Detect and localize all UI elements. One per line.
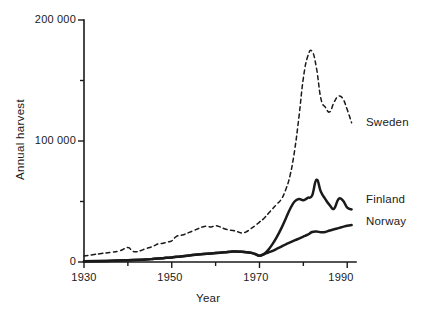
series-label-sweden: Sweden [366, 116, 409, 128]
chart-axes [84, 20, 356, 262]
series-label-finland: Finland [366, 193, 405, 205]
y-axis-title: Annual harvest [14, 99, 26, 180]
x-tick-label-1990: 1990 [327, 271, 355, 283]
series-line-norway [84, 225, 352, 261]
y-tick-label-100000: 100 000 [18, 134, 76, 146]
series-label-norway: Norway [366, 215, 406, 227]
x-axis-title: Year [196, 292, 220, 304]
chart-figure: 200 000 100 000 0 1930 1950 1970 1990 An… [0, 0, 427, 315]
y-tick-label-0: 0 [18, 255, 76, 267]
x-tick-label-1930: 1930 [70, 271, 98, 283]
x-tick-label-1950: 1950 [156, 271, 184, 283]
y-tick-label-200000: 200 000 [18, 13, 76, 25]
chart-plot-area [0, 0, 427, 315]
x-tick-label-1970: 1970 [242, 271, 270, 283]
series-line-sweden [84, 50, 352, 256]
chart-series [84, 50, 352, 261]
